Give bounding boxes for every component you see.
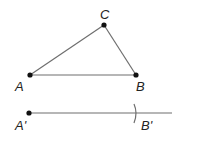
label-a: A — [14, 79, 24, 94]
label-b: B — [136, 79, 145, 94]
segment-ca — [30, 25, 104, 75]
point-c — [101, 22, 106, 27]
geometry-diagram: C A B A' B' — [0, 0, 200, 147]
segment-bc — [104, 25, 136, 75]
label-a-prime: A' — [14, 118, 27, 133]
point-b — [133, 72, 138, 77]
point-a — [27, 72, 32, 77]
label-b-prime: B' — [141, 118, 153, 133]
label-c: C — [100, 7, 110, 22]
point-a-prime — [26, 110, 31, 115]
